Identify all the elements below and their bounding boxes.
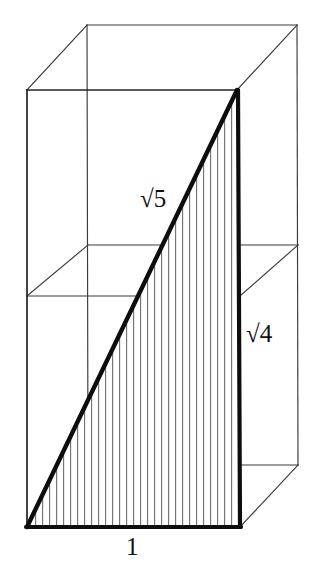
triangle-vertical-edge [238,90,240,527]
sqrt-5-diagonal-label: √5 [140,186,166,211]
unit-base-label: 1 [126,534,139,559]
mid-plane-right-edge [240,245,298,296]
box-diagram-svg [0,0,315,574]
mid-plane-left-edge [27,245,88,296]
depth-edge-bottom-right [240,465,298,527]
depth-edge-top-left [27,25,87,90]
depth-edge-top-right [237,25,297,90]
sqrt-4-height-label: √4 [246,321,272,346]
figure-canvas: √5 √4 1 [0,0,315,574]
